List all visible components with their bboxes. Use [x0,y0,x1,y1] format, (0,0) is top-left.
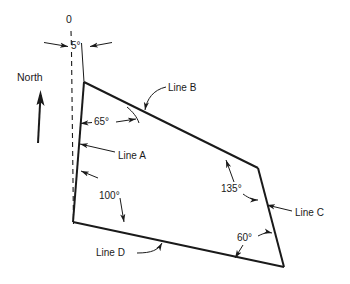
angle-60-label: 60° [237,232,252,243]
north-reference-dashed-line [71,31,74,224]
north-arrow-icon [37,90,45,143]
line-a-label: Line A [118,150,146,161]
line-d-segment [73,222,284,267]
diagram-canvas: 0 5° North 65° Line A [0,0,350,284]
bearing-offset-label: 5° [71,40,81,51]
line-c-label: Line C [295,207,324,218]
line-a-leader [80,144,115,152]
line-c-leader [267,205,292,211]
angle-65-label: 65° [94,116,109,127]
line-a-segment [73,82,84,222]
line-b-label: Line B [168,82,197,93]
zero-label: 0 [66,13,72,25]
north-label: North [17,71,43,83]
angle-65-leader [81,107,140,124]
angle-135-label: 135° [221,183,242,194]
line-b-leader [145,87,166,110]
line-d-leader [137,243,162,253]
line-d-label: Line D [96,247,125,258]
angle-100-label: 100° [99,190,120,201]
line-c-segment [258,168,284,267]
line-b-segment [84,82,258,168]
traverse-polygon [73,82,284,267]
